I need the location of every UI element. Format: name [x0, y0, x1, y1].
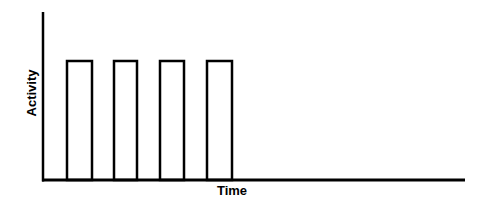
y-axis-label: Activity [24, 70, 39, 117]
activity-pulse-1 [67, 61, 92, 180]
chart-plot-area [0, 0, 487, 211]
activity-pulse-2 [114, 61, 137, 180]
x-axis-label: Time [217, 183, 247, 198]
activity-pulse-4 [207, 61, 232, 180]
activity-pulses [67, 61, 232, 180]
activity-pulse-3 [160, 61, 184, 180]
